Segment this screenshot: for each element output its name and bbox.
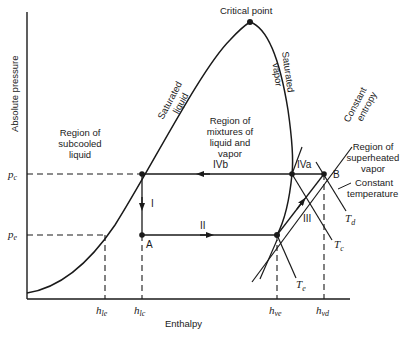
svg-text:mixtures of: mixtures of [207,126,254,137]
process-iii-label: III [303,213,311,224]
hve-tick-label: hve [269,304,282,318]
svg-text:liquid: liquid [69,149,91,160]
process-iva-label: IVa [297,159,312,170]
process-ii-label: II [200,220,206,231]
region-superheated-label: Region of superheated vapor [347,141,400,174]
x-axis-label: Enthalpy [165,318,202,329]
hlc-tick-label: hlc [134,304,146,318]
saturated-liquid-label: Saturated liquid [155,79,194,126]
hle-tick-label: hle [96,304,108,318]
constant-temperature-label-2: temperature [347,188,398,199]
constant-temperature-label-1: Constant [355,177,393,188]
process-ivb-label: IVb [213,159,228,170]
svg-text:superheated: superheated [347,152,400,163]
point-b-label: B [333,169,340,180]
constant-entropy-line-2 [260,240,277,279]
critical-point-dot [247,19,253,25]
point-ve [274,232,280,238]
y-axis-label: Absolute pressure [9,55,20,132]
hvd-tick-label: hvd [316,304,330,318]
region-subcooled-label: Region of subcooled liquid [58,127,101,160]
svg-text:Region of: Region of [210,115,251,126]
ph-diagram: Absolute pressure [0,0,412,338]
constant-entropy-label: Constant entropy [341,84,379,129]
pc-tick-label: pc [7,168,18,182]
isotherms [277,147,346,278]
isotherm-te-label: Te [296,278,306,293]
svg-text:liquid and: liquid and [210,137,251,148]
svg-text:vapor: vapor [271,62,285,87]
svg-text:Region of: Region of [353,141,394,152]
isotherm-td [316,162,346,211]
process-i-label: I [151,198,154,209]
critical-point-label: Critical point [220,5,273,16]
saturation-dome [27,22,293,293]
svg-text:vapor: vapor [361,163,385,174]
region-mixture-label: Region of mixtures of liquid and vapor [207,115,254,159]
point-iva [289,171,295,177]
point-lc [139,171,145,177]
isotherm-te [277,235,296,278]
svg-text:Region of: Region of [60,127,101,138]
point-a [139,232,145,238]
isotherm-tc-label: Tc [334,238,344,253]
cycle [142,174,324,235]
point-b [321,171,327,177]
svg-text:subcooled: subcooled [58,138,101,149]
saturated-vapor-label: Saturated vapor [269,51,297,95]
isotherm-td-label: Td [345,212,356,227]
pe-tick-label: pe [7,228,18,242]
svg-text:vapor: vapor [218,148,242,159]
point-a-label: A [146,239,153,250]
process-iii-arrow [297,201,303,209]
